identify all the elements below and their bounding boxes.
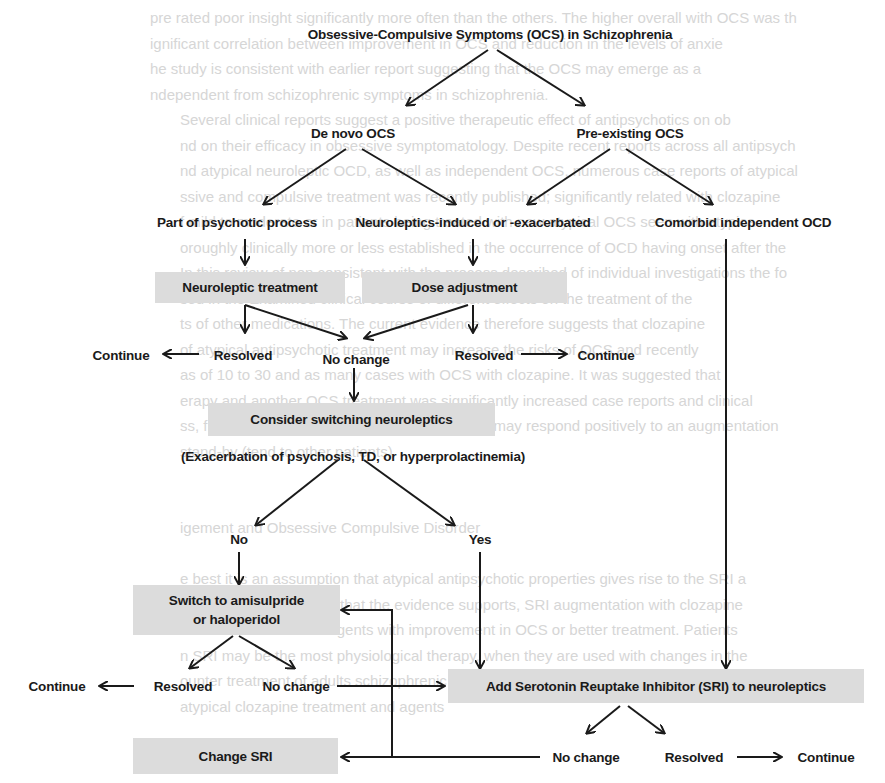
node-yes: Yes	[469, 532, 492, 547]
arrow-no-change-to-switch	[342, 610, 392, 757]
node-de-novo-ocs: De novo OCS	[311, 126, 395, 141]
box-switch-amisulpride: Switch to amisulpride or haloperidol	[133, 585, 340, 635]
node-exacerbation-note: (Exacerbation of psychosis, TD, or hyper…	[181, 449, 525, 464]
arrow-pre-existing-to-neuroleptic-induced	[528, 149, 610, 204]
arrow-de-novo-to-neuroleptic-induced	[362, 149, 455, 204]
node-resolved-bottom-right: Resolved	[665, 750, 723, 765]
box-consider-switching: Consider switching neuroleptics	[208, 403, 495, 436]
arrow-title-to-de-novo	[407, 50, 488, 105]
node-comorbid-ocd: Comorbid independent OCD	[655, 215, 832, 230]
arrow-switch-to-resolved	[190, 636, 233, 668]
node-continue-bottom-right: Continue	[798, 750, 855, 765]
node-pre-existing-ocs: Pre-existing OCS	[576, 126, 683, 141]
box-label: Change SRI	[199, 747, 273, 766]
arrow-neuroleptic-treatment-to-no-change	[245, 305, 346, 338]
arrow-title-to-pre-existing	[497, 50, 584, 105]
box-dose-adjustment: Dose adjustment	[362, 272, 567, 303]
box-neuroleptic-treatment: Neuroleptic treatment	[155, 272, 345, 303]
node-continue-left: Continue	[93, 348, 150, 363]
arrow-switch-to-no-change	[239, 636, 294, 668]
box-label-line2: or haloperidol	[193, 610, 280, 629]
node-no-change-center: No change	[322, 352, 389, 367]
arrow-add-sri-to-resolved	[628, 706, 664, 733]
box-label-line1: Switch to amisulpride	[169, 591, 304, 610]
node-continue-right: Continue	[578, 348, 635, 363]
box-label: Add Serotonin Reuptake Inhibitor (SRI) t…	[486, 677, 826, 696]
box-add-sri: Add Serotonin Reuptake Inhibitor (SRI) t…	[448, 669, 864, 703]
node-psychotic-process: Part of psychotic process	[157, 215, 317, 230]
node-no: No	[230, 532, 248, 547]
node-resolved-right: Resolved	[455, 348, 513, 363]
arrow-de-novo-to-psychotic	[264, 149, 346, 204]
node-no-change-bottom-left: No change	[262, 679, 329, 694]
node-resolved-left: Resolved	[214, 348, 272, 363]
arrow-exacerbation-to-no	[256, 460, 338, 525]
node-resolved-bottom-left: Resolved	[154, 679, 212, 694]
node-no-change-bottom-right: No change	[552, 750, 619, 765]
arrow-pre-existing-to-comorbid	[626, 149, 712, 204]
node-neuroleptic-induced: Neuroleptics-induced or -exacerbated	[355, 215, 590, 230]
flowchart-connectors	[0, 0, 885, 783]
arrow-add-sri-to-no-change	[587, 706, 620, 733]
arrow-dose-to-no-change	[365, 305, 468, 338]
box-change-sri: Change SRI	[133, 738, 338, 774]
box-label: Neuroleptic treatment	[182, 278, 317, 297]
arrow-exacerbation-to-yes	[364, 460, 454, 525]
node-continue-bottom-left: Continue	[29, 679, 86, 694]
box-label: Consider switching neuroleptics	[250, 410, 452, 429]
diagram-title: Obsessive-Compulsive Symptoms (OCS) in S…	[308, 27, 673, 42]
box-label: Dose adjustment	[412, 278, 518, 297]
